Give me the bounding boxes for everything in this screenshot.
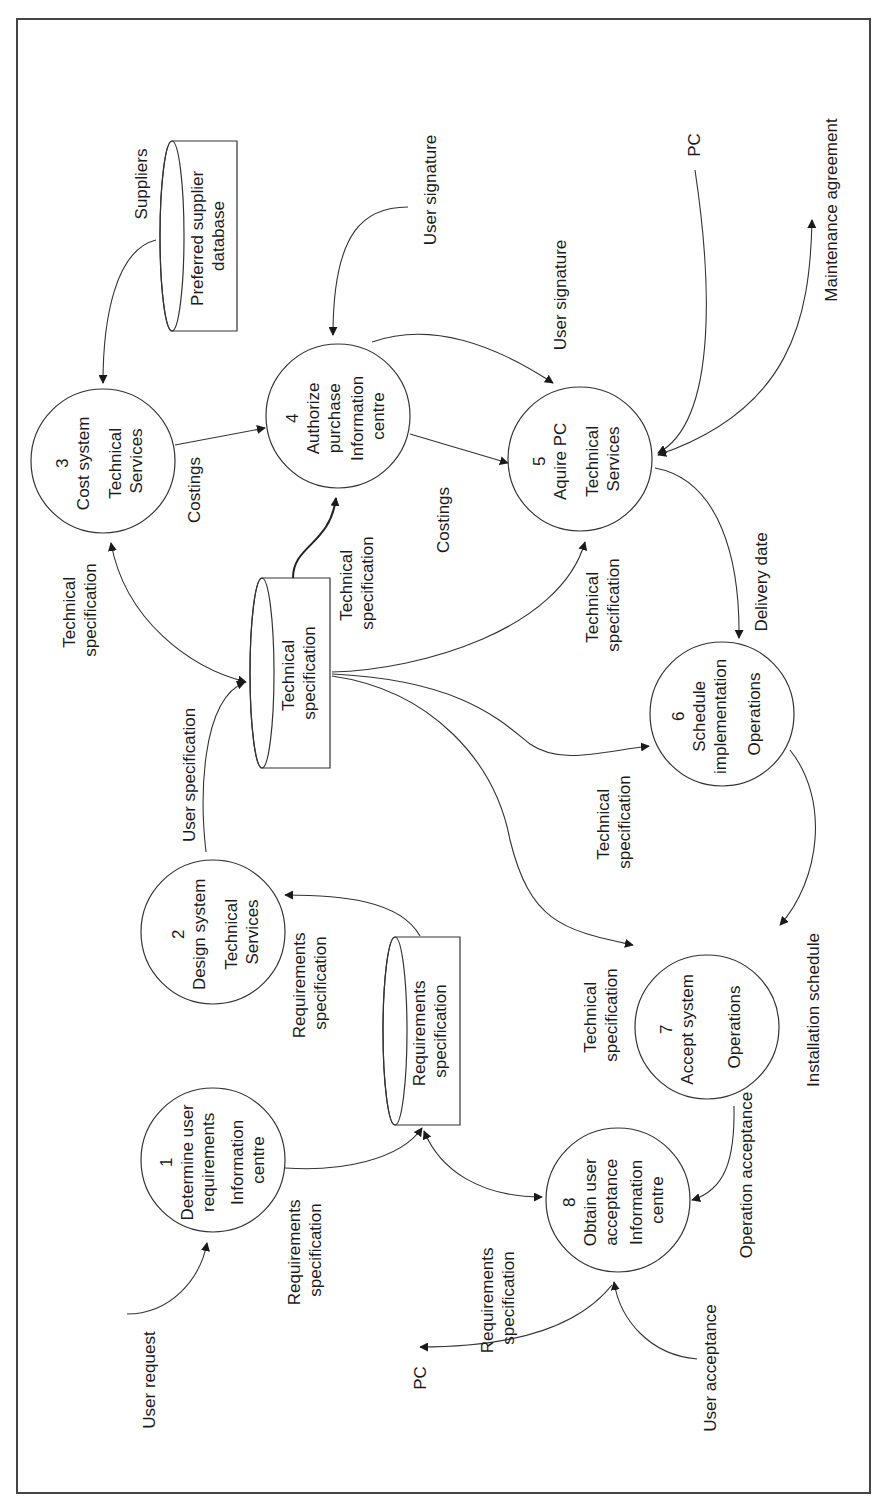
datastore-requirements-spec: Requirements specification bbox=[383, 937, 460, 1125]
flow-6-to-7-arrow bbox=[780, 750, 815, 925]
label-techstore-5: Technical specification bbox=[583, 558, 623, 652]
label-operation-acceptance: Operation acceptance bbox=[737, 1092, 756, 1258]
process-3: 3 Cost system Technical Services bbox=[31, 389, 175, 533]
label-reqstore-2: Requirements specification bbox=[290, 928, 330, 1039]
label-delivery-date: Delivery date bbox=[752, 532, 771, 631]
label-1-reqstore: Requirements specification bbox=[285, 1195, 325, 1306]
flow-techstore-to-6-arrow bbox=[332, 674, 649, 756]
datastore-technical-spec: Technical specification bbox=[250, 578, 330, 768]
label-pc-in: PC bbox=[685, 133, 704, 157]
flow-suppliers-arrow bbox=[103, 240, 156, 383]
flow-user-acceptance-arrow bbox=[614, 1282, 697, 1359]
process-5: 5 Aquire PC Technical Services bbox=[508, 387, 652, 531]
flow-usersig-to-4-arrow bbox=[333, 207, 408, 335]
label-suppliers: Suppliers bbox=[132, 149, 151, 220]
label-user-specification: User specification bbox=[180, 708, 199, 842]
flow-7-to-8-arrow bbox=[692, 1106, 734, 1200]
flow-4-to-5-cost-arrow bbox=[410, 434, 508, 463]
flow-pc-to-5-arrow bbox=[658, 170, 706, 453]
flow-reqstore-8-arrow bbox=[424, 1131, 542, 1197]
flow-3-to-4-arrow bbox=[175, 428, 265, 445]
flow-2-to-techstore-arrow bbox=[203, 682, 245, 852]
flow-1-to-reqstore-arrow bbox=[285, 1128, 422, 1169]
process-1: 1 Determine user requirements Informatio… bbox=[141, 1088, 285, 1232]
process-2: 2 Design system Technical Services bbox=[141, 860, 285, 1004]
label-techstore-7: Technical specification bbox=[581, 968, 621, 1062]
label-techstore-4: Technical specification bbox=[337, 536, 377, 630]
label-user-signature-4-5: User signature bbox=[551, 240, 570, 351]
label-user-signature-in: User signature bbox=[421, 135, 440, 246]
datastore-preferred-supplier: Preferred supplier database bbox=[160, 141, 237, 331]
process-4: 4 Authorize purchase Information centre bbox=[266, 344, 410, 488]
label-user-request: User request bbox=[140, 1331, 159, 1429]
label-installation-schedule: Installation schedule bbox=[804, 933, 823, 1087]
label-reqstore-8: Requirements specification bbox=[478, 1243, 518, 1354]
flow-4-to-5-sig-arrow bbox=[372, 334, 553, 383]
label-techstore-3: Technical specification bbox=[60, 563, 100, 657]
flow-user-request-arrow bbox=[127, 1243, 207, 1314]
label-costings-3-4: Costings bbox=[185, 457, 204, 523]
data-flow-diagram: 1 Determine user requirements Informatio… bbox=[0, 0, 886, 1502]
label-techstore-6: Technical specification bbox=[594, 775, 634, 869]
flow-5-to-6-arrow bbox=[655, 468, 739, 638]
flow-techstore-to-4-arrow bbox=[293, 498, 336, 578]
label-maintenance-agreement: Maintenance agreement bbox=[822, 118, 841, 302]
process-6: 6 Schedule implementation Operations bbox=[650, 642, 794, 786]
process-8: 8 Obtain user acceptance Information cen… bbox=[546, 1128, 690, 1272]
flow-techstore-3-arrow bbox=[111, 543, 246, 682]
label-costings-4-5: Costings bbox=[434, 487, 453, 553]
process-7: 7 Accept system Operations bbox=[635, 955, 779, 1099]
flow-maintenance-arrow bbox=[658, 220, 812, 455]
label-user-acceptance: User acceptance bbox=[701, 1304, 720, 1432]
label-pc-out: PC bbox=[411, 1366, 430, 1390]
